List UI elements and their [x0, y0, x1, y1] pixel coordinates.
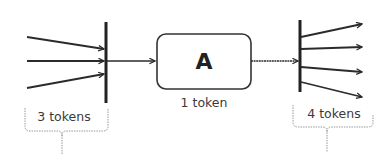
incoming-arrows — [27, 37, 104, 88]
outgoing-arrow-4 — [301, 82, 362, 97]
node-a-label: A — [195, 51, 212, 73]
outgoing-arrow-3 — [301, 67, 362, 72]
outgoing-arrow-2 — [301, 47, 362, 49]
incoming-arrow-3 — [27, 74, 104, 88]
incoming-arrow-1 — [27, 37, 104, 49]
outgoing-arrows — [301, 24, 362, 97]
outgoing-arrow-1 — [301, 24, 362, 37]
node-a-caption: 1 token — [181, 97, 228, 110]
input-token-count-label: 3 tokens — [37, 111, 90, 124]
token-flow-diagram — [0, 0, 380, 165]
output-token-count-label: 4 tokens — [307, 108, 360, 121]
